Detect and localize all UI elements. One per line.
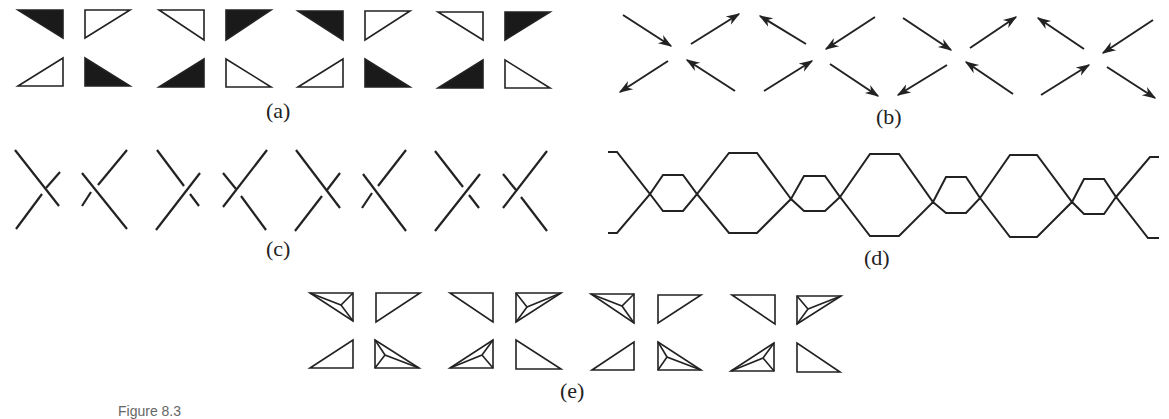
triangle-block-3 bbox=[298, 11, 410, 87]
panel-b-label: (b) bbox=[876, 104, 902, 130]
panel-c-crossings bbox=[15, 150, 547, 231]
panel-e-label: (e) bbox=[560, 378, 584, 404]
triangle-block-4 bbox=[438, 12, 550, 88]
panel-b-arrows bbox=[620, 14, 1155, 98]
panel-a-triangles bbox=[18, 10, 550, 88]
panel-c-label: (c) bbox=[266, 236, 290, 262]
subdivided-block-1 bbox=[310, 293, 420, 368]
subdivided-block-4 bbox=[731, 295, 841, 372]
figure-caption-partial: Figure 8.3 bbox=[118, 403, 181, 419]
panel-a-label: (a) bbox=[266, 98, 290, 124]
panel-e-triangles bbox=[310, 293, 841, 372]
triangle-block-2 bbox=[159, 10, 271, 87]
triangle-block-1 bbox=[18, 10, 130, 86]
subdivided-block-3 bbox=[591, 294, 701, 370]
panel-d-braid bbox=[608, 152, 1159, 238]
panel-d-label: (d) bbox=[864, 245, 890, 271]
subdivided-block-2 bbox=[450, 293, 561, 369]
